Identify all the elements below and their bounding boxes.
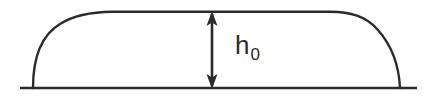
droplet-height-diagram (0, 0, 429, 98)
figure-container: h0 (0, 0, 429, 98)
height-label: h0 (235, 32, 259, 58)
height-symbol: h (235, 30, 249, 60)
height-subscript: 0 (250, 45, 259, 64)
